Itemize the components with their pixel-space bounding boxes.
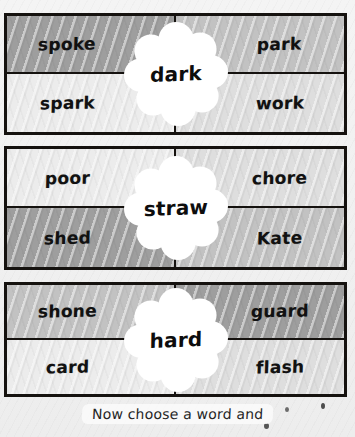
word-label: poor [44, 167, 90, 188]
worksheet-boxes: spoke park spark work [0, 0, 355, 437]
flower-center-word: hard [149, 327, 202, 353]
word-label: park [257, 34, 302, 55]
word-box-3: shone guard card flash [4, 282, 347, 397]
instruction-caption: Now choose a word and [0, 404, 355, 424]
word-label: shone [37, 301, 97, 322]
word-label: chore [252, 167, 308, 188]
flower-center-word: straw [143, 195, 208, 221]
word-label: work [255, 92, 304, 113]
word-label: shed [43, 227, 91, 248]
word-label: guard [251, 301, 309, 322]
instruction-text: Now choose a word and [81, 404, 273, 424]
word-label: flash [255, 356, 304, 377]
word-label: spark [39, 92, 95, 113]
word-label: spoke [38, 33, 96, 54]
word-box-2: poor chore shed Kate [4, 146, 347, 270]
word-label: card [45, 356, 89, 377]
word-label: Kate [257, 227, 303, 248]
word-box-1: spoke park spark work [4, 13, 347, 135]
flower-center-word: dark [149, 61, 201, 87]
